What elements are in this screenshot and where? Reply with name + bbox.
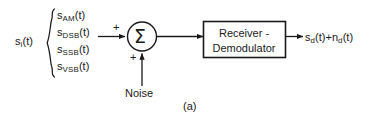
output-signal-argument: (t) bbox=[315, 31, 325, 43]
signal-subscript: VSB bbox=[63, 65, 79, 74]
signal-argument: (t) bbox=[79, 26, 89, 38]
output-signal-label: sd(t)+nd(t) bbox=[305, 32, 353, 45]
signal-item-vsb: sVSB(t) bbox=[57, 61, 89, 74]
signal-subscript: DSB bbox=[63, 31, 80, 40]
block-diagram-figure: si(t) sAM(t) sDSB(t) sSSB(t) sVSB(t) + +… bbox=[0, 0, 391, 124]
input-signal-argument: (t) bbox=[22, 35, 32, 47]
figure-caption: (a) bbox=[183, 101, 196, 112]
signal-subscript: SSB bbox=[63, 48, 79, 57]
noise-source-label: Noise bbox=[125, 88, 153, 99]
signal-item-am: sAM(t) bbox=[57, 10, 85, 23]
input-signal-label: si(t) bbox=[15, 36, 33, 49]
signal-argument: (t) bbox=[79, 60, 89, 72]
signal-input-plus-sign: + bbox=[113, 22, 119, 33]
signal-item-dsb: sDSB(t) bbox=[57, 27, 90, 40]
sigma-icon: Σ bbox=[134, 27, 146, 46]
noise-input-plus-sign: + bbox=[130, 52, 136, 63]
receiver-block-label-line-1: Receiver - bbox=[203, 28, 285, 39]
signal-group-brace bbox=[47, 9, 54, 77]
output-noise-argument: (t) bbox=[343, 31, 353, 43]
signal-argument: (t) bbox=[79, 43, 89, 55]
signal-subscript: AM bbox=[63, 14, 75, 23]
signal-argument: (t) bbox=[75, 9, 85, 21]
receiver-block-label-line-2: Demodulator bbox=[203, 43, 285, 54]
signal-item-ssb: sSSB(t) bbox=[57, 44, 89, 57]
